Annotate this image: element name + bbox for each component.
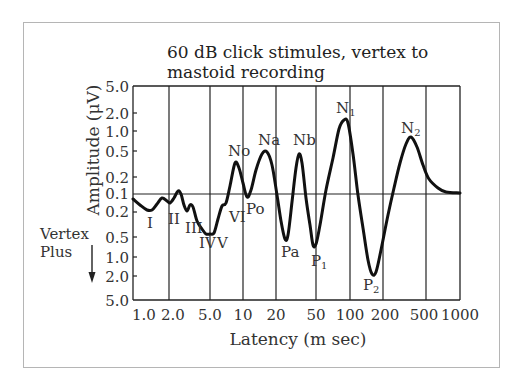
- y-tick: 5.0: [105, 292, 129, 310]
- y-tick: 0.2: [105, 203, 129, 221]
- x-tick-labels: 1.0 2.0 5.0 10 20 50 100 200 500 1000: [132, 306, 479, 324]
- y-tick: 5.0: [105, 78, 129, 96]
- x-tick: 200: [371, 306, 400, 324]
- x-tick: 5.0: [198, 306, 222, 324]
- peak-label: P2: [363, 276, 379, 295]
- vertical-gridlines: [169, 86, 426, 300]
- peak-label: VI: [228, 208, 246, 226]
- y-tick: 1.0: [105, 249, 129, 267]
- y-tick: 1.0: [105, 123, 129, 141]
- x-tick: 20: [266, 306, 285, 324]
- peak-label: No: [228, 142, 250, 160]
- y-tick: 0.1: [105, 185, 129, 203]
- peak-label: IV: [199, 234, 217, 252]
- chart-title-line-2: mastoid recording: [167, 62, 325, 82]
- chart-title-line-1: 60 dB click stimules, vertex to: [167, 42, 428, 62]
- vertex-plus-note-line-2: Plus: [40, 243, 72, 261]
- down-arrow-icon: [89, 245, 96, 283]
- x-axis-label: Latency (m sec): [230, 329, 367, 349]
- x-tick: 10: [233, 306, 252, 324]
- y-axis-label: Amplitude (μV): [83, 85, 103, 217]
- y-tick: 0.5: [105, 229, 129, 247]
- peak-label: N2: [401, 119, 421, 138]
- peak-label: Pa: [281, 243, 299, 261]
- x-tick: 50: [306, 306, 325, 324]
- peak-labels: IIIIIIIVVVINoPoNaPaNbP1N1P2N2: [147, 99, 421, 295]
- x-tick: 500: [410, 306, 439, 324]
- peak-label: I: [147, 214, 153, 232]
- peak-label: P1: [311, 252, 327, 271]
- x-tick: 1.0: [132, 306, 156, 324]
- peak-label: II: [168, 210, 180, 228]
- y-tick: 2.0: [105, 268, 129, 286]
- peak-label: Nb: [293, 131, 316, 149]
- peak-label: V: [216, 234, 229, 252]
- vertex-plus-note-line-1: Vertex: [39, 225, 89, 243]
- x-tick: 2.0: [161, 306, 185, 324]
- y-tick: 0.5: [105, 143, 129, 161]
- peak-label: Na: [258, 131, 280, 149]
- y-tick-labels: 5.0 2.0 1.0 0.5 0.2 0.1 0.2 0.5 1.0 2.0 …: [105, 78, 129, 310]
- peak-label: N1: [336, 99, 356, 118]
- y-tick: 2.0: [105, 105, 129, 123]
- abr-chart: 60 dB click stimules, vertex to mastoid …: [0, 0, 512, 382]
- peak-label: Po: [246, 200, 265, 218]
- x-tick: 100: [336, 306, 365, 324]
- x-tick: 1000: [441, 306, 479, 324]
